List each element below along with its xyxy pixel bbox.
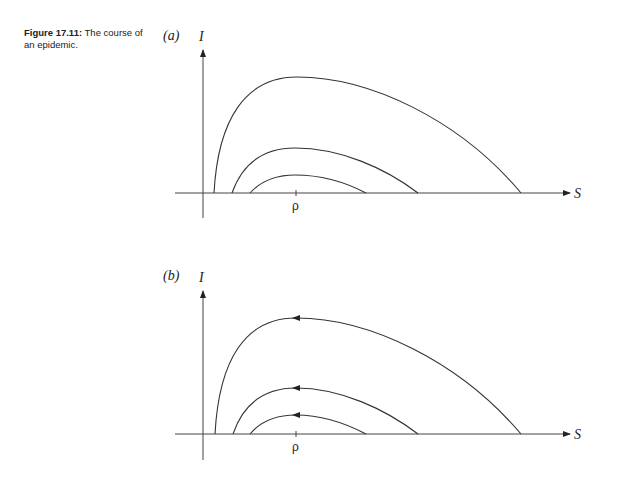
panel-a: (a) I S ρ (163, 28, 581, 218)
trajectory-large-b (215, 318, 521, 434)
trajectory-small-a (250, 175, 366, 193)
x-axis-label-b: S (574, 427, 581, 442)
direction-arrow-icon-small (292, 412, 300, 418)
direction-arrow-icon-large (292, 315, 300, 321)
trajectory-middle-b (233, 388, 418, 434)
trajectory-large-a (214, 77, 521, 193)
y-axis-label-b: I (198, 270, 205, 285)
panel-b: (b) I S ρ (163, 268, 581, 460)
panel-label-b: (b) (163, 268, 180, 284)
x-axis-label-a: S (574, 186, 581, 201)
panel-label-a: (a) (163, 28, 180, 44)
y-axis-label-a: I (198, 29, 205, 44)
epidemic-figure: (a) I S ρ (b) I S ρ (0, 0, 625, 483)
rho-label-b: ρ (292, 440, 299, 454)
rho-label-a: ρ (292, 199, 299, 213)
direction-arrow-icon-middle (292, 385, 300, 391)
trajectory-middle-a (232, 148, 418, 193)
trajectory-small-b (250, 415, 366, 434)
